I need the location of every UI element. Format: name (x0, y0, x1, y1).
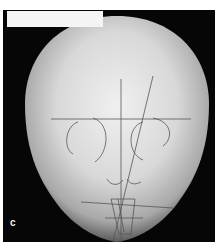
skull-radiograph (23, 14, 211, 242)
label-box (7, 11, 103, 27)
radiograph-frame: c (3, 10, 215, 242)
panel-label: c (10, 217, 16, 228)
